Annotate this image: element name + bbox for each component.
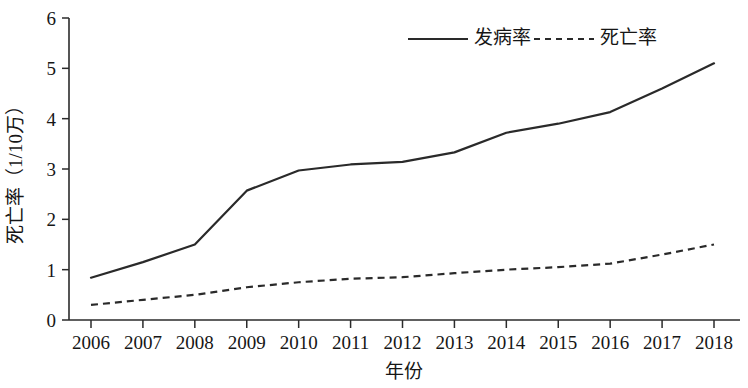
y-axis-ticks: 0123456 (47, 8, 70, 331)
y-tick-label: 4 (47, 109, 57, 130)
legend-label-mortality: 死亡率 (600, 27, 657, 48)
y-tick-label: 6 (47, 8, 57, 29)
x-tick-label: 2012 (384, 332, 422, 353)
axis-group (69, 18, 740, 320)
y-tick-label: 0 (47, 310, 57, 331)
x-tick-label: 2006 (72, 332, 110, 353)
legend: 发病率 死亡率 (408, 27, 657, 48)
y-tick-label: 5 (47, 58, 57, 79)
x-tick-label: 2007 (124, 332, 162, 353)
x-tick-label: 2010 (280, 332, 318, 353)
x-tick-label: 2015 (539, 332, 577, 353)
series-line-incidence (91, 63, 714, 277)
x-tick-label: 2011 (332, 332, 369, 353)
x-axis-ticks: 2006200720082009201020112012201320142015… (72, 320, 733, 353)
x-tick-label: 2014 (487, 332, 526, 353)
series-group (91, 63, 714, 305)
x-tick-label: 2008 (176, 332, 214, 353)
x-axis-title: 年份 (385, 361, 423, 382)
series-line-mortality (91, 245, 714, 305)
y-tick-label: 2 (47, 209, 57, 230)
y-tick-label: 1 (47, 260, 57, 281)
x-tick-label: 2018 (695, 332, 733, 353)
legend-label-incidence: 发病率 (474, 27, 531, 48)
x-tick-label: 2016 (591, 332, 629, 353)
x-tick-label: 2009 (228, 332, 266, 353)
y-tick-label: 3 (47, 159, 57, 180)
y-axis-title: 死亡率（1/10万） (5, 96, 26, 244)
line-chart: 0123456 20062007200820092010201120122013… (0, 0, 748, 388)
x-tick-label: 2017 (643, 332, 681, 353)
x-tick-label: 2013 (435, 332, 473, 353)
chart-canvas: 0123456 20062007200820092010201120122013… (0, 0, 748, 388)
